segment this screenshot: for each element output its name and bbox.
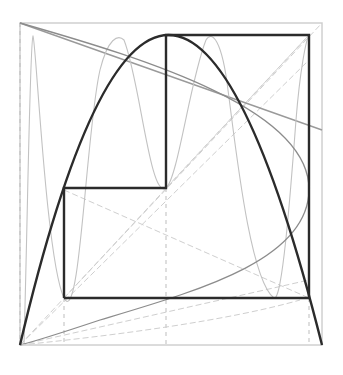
inner-frame	[14, 17, 328, 19]
diagram-canvas	[0, 0, 343, 375]
medium-diagonal	[20, 23, 322, 130]
cobweb-diagram	[0, 0, 343, 375]
lower-arc	[20, 300, 300, 345]
